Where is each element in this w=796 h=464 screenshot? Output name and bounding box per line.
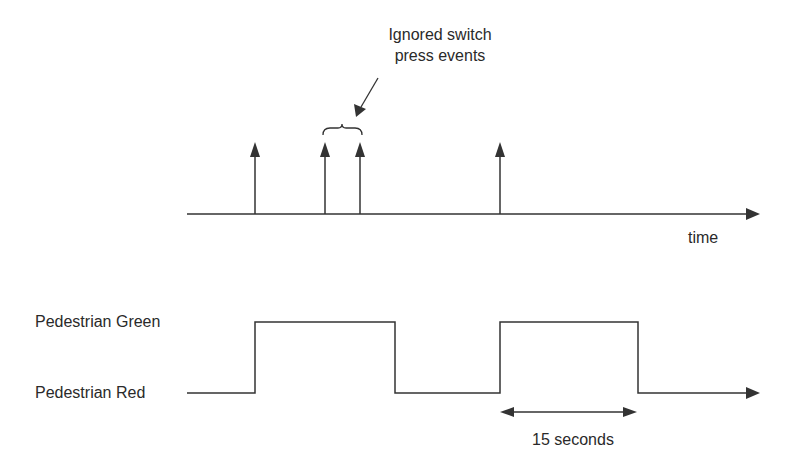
event-arrow [495,142,505,214]
pedestrian-signal-waveform [187,322,760,399]
duration-double-arrow [500,407,637,417]
time-axis [187,208,760,220]
event-arrow-ignored [320,142,330,214]
switch-press-events [250,142,505,214]
pedestrian-red-label: Pedestrian Red [35,384,145,402]
event-arrow [250,142,260,214]
annotation-label: Ignored switch press events [360,24,520,66]
duration-label: 15 seconds [513,431,633,449]
annotation-line-2: press events [360,45,520,66]
annotation-pointer-arrow [354,78,378,117]
annotation-line-1: Ignored switch [360,24,520,45]
time-axis-label: time [688,229,718,247]
pedestrian-green-label: Pedestrian Green [35,313,160,331]
event-arrow-ignored [355,142,365,214]
brace-icon [323,124,362,135]
